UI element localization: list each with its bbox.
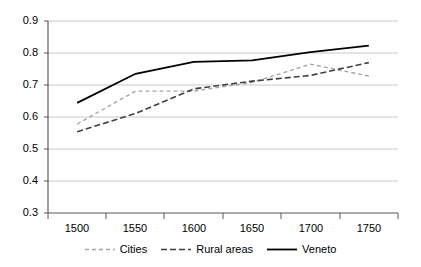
x-tick-marks (48, 213, 398, 219)
legend-label-rural-areas: Rural areas (196, 243, 253, 255)
chart-legend: Cities Rural areas Veneto (0, 240, 421, 258)
y-tick-label-6: 0.3 (8, 207, 38, 218)
legend-item-veneto: Veneto (267, 243, 336, 255)
x-tick-label-1650: 1650 (230, 223, 274, 234)
x-tick-label-1550: 1550 (113, 223, 157, 234)
dotted-line-swatch-icon (85, 245, 115, 254)
series-line-veneto (77, 46, 369, 103)
y-tick-label-2: 0.7 (8, 79, 38, 90)
x-tick-label-1500: 1500 (55, 223, 99, 234)
series-line-cities (77, 64, 369, 124)
y-tick-label-5: 0.4 (8, 175, 38, 186)
dashed-line-swatch-icon (161, 245, 191, 254)
y-tick-label-4: 0.5 (8, 143, 38, 154)
y-tick-label-1: 0.8 (8, 47, 38, 58)
y-tick-label-0: 0.9 (8, 15, 38, 26)
x-tick-label-1600: 1600 (172, 223, 216, 234)
legend-label-veneto: Veneto (302, 243, 336, 255)
x-tick-label-1750: 1750 (347, 223, 391, 234)
x-tick-label-1700: 1700 (289, 223, 333, 234)
legend-label-cities: Cities (120, 243, 148, 255)
line-chart: 0.9 0.8 0.7 0.6 0.5 0.4 0.3 1500 1550 16… (0, 0, 421, 267)
gridlines (48, 21, 398, 181)
legend-item-rural-areas: Rural areas (161, 243, 253, 255)
series-line-rural-areas (77, 63, 369, 132)
solid-line-swatch-icon (267, 245, 297, 254)
legend-item-cities: Cities (85, 243, 148, 255)
y-tick-label-3: 0.6 (8, 111, 38, 122)
